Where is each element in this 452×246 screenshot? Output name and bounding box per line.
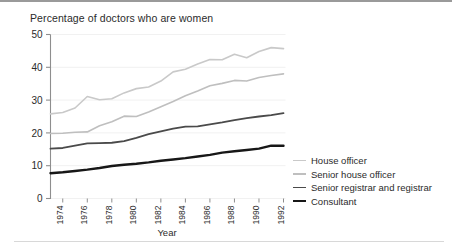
x-axis-ticks: 1974197619781980198219841986198819901992 (55, 199, 286, 225)
y-axis-tick-label: 30 (31, 95, 43, 106)
x-axis-tick-label: 1988 (226, 205, 236, 224)
legend-label: Senior registrar and registrar (311, 182, 432, 193)
y-axis-tick-label: 40 (31, 62, 43, 73)
chart-legend: House officerSenior house officerSenior … (293, 155, 432, 207)
gridlines (51, 35, 286, 199)
legend-swatch-icon (293, 173, 306, 175)
series-line (51, 113, 284, 148)
y-axis-tick-label: 0 (37, 193, 43, 204)
legend-item[interactable]: Senior registrar and registrar (293, 182, 432, 193)
legend-label: Consultant (311, 196, 356, 207)
line-chart-plot: 01020304050 1974197619781980198219841986… (0, 0, 452, 246)
x-axis-tick-label: 1990 (251, 205, 261, 224)
legend-item[interactable]: House officer (293, 155, 432, 166)
legend-item[interactable]: Consultant (293, 196, 432, 207)
x-axis-tick-label: 1980 (128, 205, 138, 224)
legend-swatch-icon (293, 187, 306, 189)
series-line (51, 146, 284, 174)
y-axis-tick-label: 50 (31, 29, 43, 40)
y-axis-tick-label: 20 (31, 128, 43, 139)
x-axis-tick-label: 1982 (153, 205, 163, 224)
x-axis-tick-label: 1978 (104, 205, 114, 224)
legend-item[interactable]: Senior house officer (293, 169, 432, 180)
x-axis-tick-label: 1974 (55, 205, 65, 224)
y-axis-ticks: 01020304050 (31, 29, 50, 204)
data-series-group (51, 48, 284, 174)
y-axis-tick-label: 10 (31, 160, 43, 171)
figure-container: Percentage of doctors who are women 0102… (0, 0, 452, 246)
legend-label: Senior house officer (311, 169, 395, 180)
x-axis-tick-label: 1984 (177, 205, 187, 224)
series-line (51, 74, 284, 134)
legend-swatch-icon (293, 160, 306, 162)
legend-swatch-icon (293, 200, 306, 202)
x-axis-tick-label: 1992 (276, 205, 286, 224)
x-axis-tick-label: 1986 (202, 205, 212, 224)
legend-label: House officer (311, 155, 367, 166)
x-axis-title: Year (157, 227, 176, 238)
x-axis-tick-label: 1976 (79, 205, 89, 224)
